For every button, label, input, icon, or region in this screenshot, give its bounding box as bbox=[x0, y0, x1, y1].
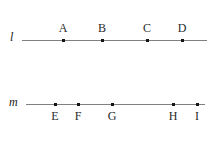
geometry-figure: l A B C D m E F G H I bbox=[0, 0, 214, 147]
point-dot-e bbox=[54, 103, 57, 106]
point-dot-f bbox=[77, 103, 80, 106]
point-label-i: I bbox=[195, 110, 199, 122]
point-dot-g bbox=[111, 103, 114, 106]
point-label-f: F bbox=[75, 110, 82, 122]
line-label-m: m bbox=[9, 96, 18, 108]
point-label-e: E bbox=[51, 110, 58, 122]
line-group-m: m E F G H I bbox=[0, 0, 214, 147]
point-dot-i bbox=[196, 103, 199, 106]
point-dot-h bbox=[172, 103, 175, 106]
point-label-g: G bbox=[108, 110, 117, 122]
line-stroke-m bbox=[26, 104, 205, 105]
point-label-h: H bbox=[169, 110, 178, 122]
